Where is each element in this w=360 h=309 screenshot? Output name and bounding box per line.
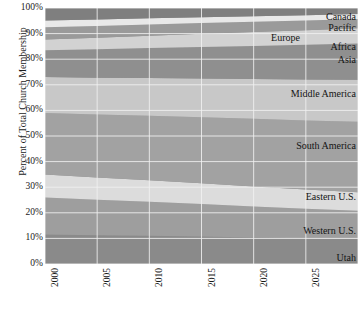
series-label-utah: Utah <box>337 252 356 263</box>
y-tick-90: 90% <box>9 29 43 39</box>
y-tick-30: 30% <box>9 182 43 192</box>
y-tick-20: 20% <box>9 208 43 218</box>
x-tick-2000: 2000 <box>50 268 60 308</box>
x-tick-2025: 2025 <box>311 268 321 308</box>
series-label-western-u-s: Western U.S. <box>303 225 356 236</box>
x-tick-2005: 2005 <box>102 268 112 308</box>
x-tick-2020: 2020 <box>259 268 269 308</box>
y-tick-50: 50% <box>9 131 43 141</box>
series-label-canada: Canada <box>326 11 356 22</box>
series-label-south-america: South America <box>296 140 356 151</box>
series-label-europe: Europe <box>271 32 300 43</box>
y-tick-100: 100% <box>9 3 43 13</box>
stacked-area-chart: Percent of Total Church Membership 0%10%… <box>0 0 360 309</box>
series-label-eastern-u-s: Eastern U.S. <box>306 191 356 202</box>
x-tick-2010: 2010 <box>154 268 164 308</box>
series-label-middle-america: Middle America <box>291 88 356 99</box>
y-tick-40: 40% <box>9 157 43 167</box>
series-label-pacific: Pacific <box>328 22 356 33</box>
y-tick-60: 60% <box>9 105 43 115</box>
series-label-africa: Africa <box>330 41 356 52</box>
x-tick-2015: 2015 <box>207 268 217 308</box>
y-tick-80: 80% <box>9 54 43 64</box>
series-label-asia: Asia <box>338 54 356 65</box>
y-tick-70: 70% <box>9 80 43 90</box>
y-tick-10: 10% <box>9 233 43 243</box>
y-tick-0: 0% <box>9 259 43 269</box>
